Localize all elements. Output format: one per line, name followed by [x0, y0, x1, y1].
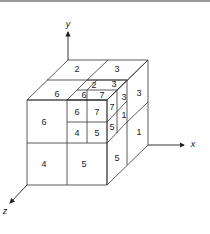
label-sub-top-front-right: 7 — [99, 90, 104, 100]
label-sub-front-bottom-left: 4 — [74, 128, 79, 138]
label-top-back-left: 2 — [74, 64, 79, 74]
label-sub-front-bottom-right: 5 — [94, 128, 99, 138]
label-sub-right-front-bottom: 5 — [109, 122, 114, 132]
axes: y x z — [2, 19, 196, 216]
z-axis-label: z — [2, 206, 8, 216]
label-sub-right-back-top: 3 — [121, 92, 126, 102]
label-sub-front-top-right: 7 — [94, 107, 99, 117]
octree-diagram: y x z 2 3 — [0, 0, 210, 234]
label-front-bottom-right: 5 — [81, 159, 86, 169]
label-right-back-top: 3 — [136, 88, 141, 98]
y-axis-label: y — [65, 19, 71, 29]
label-front-bottom-left: 4 — [41, 159, 46, 169]
label-sub-front-top-left: 6 — [74, 107, 79, 117]
label-right-back-bottom: 1 — [136, 127, 141, 137]
x-axis-label: x — [190, 139, 196, 149]
label-sub-top-back-left: 2 — [91, 80, 96, 90]
label-top-back-right: 3 — [114, 64, 119, 74]
z-axis — [10, 185, 27, 203]
label-sub-top-front-left: 6 — [81, 90, 86, 100]
label-sub-top-back-right: 3 — [111, 79, 116, 89]
label-sub-right-back-bottom: 1 — [121, 110, 126, 120]
label-front-top-left: 6 — [41, 117, 46, 127]
label-top-front-left: 6 — [54, 89, 59, 99]
label-right-front-bottom: 5 — [114, 153, 119, 163]
label-sub-right-front-top: 7 — [109, 102, 114, 112]
